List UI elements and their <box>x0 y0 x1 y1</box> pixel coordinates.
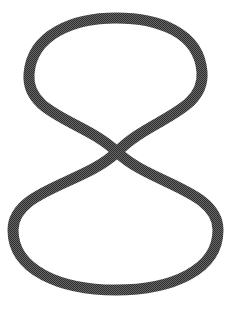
figure-eight-drawing <box>0 0 229 311</box>
drawing-canvas <box>0 0 229 311</box>
